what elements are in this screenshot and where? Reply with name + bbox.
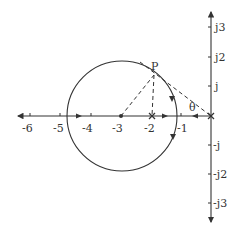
dashed-center-to-p (121, 75, 154, 116)
axis-arrow-icon (162, 114, 168, 119)
point-p-label: P (151, 60, 159, 73)
axis-arrow-icon (76, 114, 82, 119)
center-point (119, 114, 123, 118)
real-tick-label: -4 (82, 122, 93, 135)
imag-tick-label: j2 (213, 51, 225, 64)
complex-plane-diagram: -6 -5 -4 -3 -2 -1 j3 j2 j -j -j2 -j3 P θ (0, 0, 248, 235)
real-tick-label: -2 (144, 122, 155, 135)
axis-arrow-icon (192, 114, 198, 119)
imag-tick-label: j (213, 80, 218, 93)
imag-tick-label: -j2 (213, 168, 227, 181)
imag-tick-label: -j (213, 139, 220, 152)
real-tick-label: -1 (177, 122, 188, 135)
angle-theta-label: θ (189, 101, 196, 114)
imag-tick-label: j3 (213, 21, 225, 34)
real-tick-label: -3 (112, 122, 123, 135)
circle-arrow-icon (170, 134, 176, 140)
real-tick-label: -6 (22, 122, 33, 135)
dashed-p-vertical (152, 75, 154, 116)
imag-tick-label: -j3 (213, 197, 227, 210)
real-tick-label: -5 (53, 122, 64, 135)
diagram-canvas: -6 -5 -4 -3 -2 -1 j3 j2 j -j -j2 -j3 P θ (0, 0, 248, 235)
